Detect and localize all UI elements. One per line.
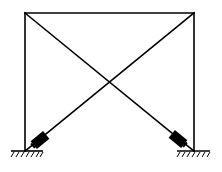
x-bracing [25, 13, 194, 151]
right-fixed-support [177, 151, 210, 157]
braced-frame-diagram [0, 0, 222, 172]
left-fixed-support [11, 151, 43, 157]
